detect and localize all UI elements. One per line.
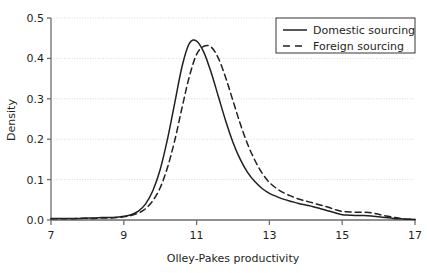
legend-label: Domestic sourcing: [313, 24, 415, 37]
x-tick-label: 7: [48, 229, 55, 242]
density-chart: 0.00.10.20.30.40.5 7911131517 Domestic s…: [0, 0, 428, 273]
y-tick-label: 0.3: [27, 93, 45, 106]
x-tick-label: 9: [120, 229, 127, 242]
y-tick-label: 0.0: [27, 214, 45, 227]
x-tick-label: 15: [335, 229, 349, 242]
y-tick-label: 0.4: [27, 52, 45, 65]
legend-label: Foreign sourcing: [313, 40, 404, 53]
y-tick-label: 0.1: [27, 174, 45, 187]
chart-legend: Domestic sourcingForeign sourcing: [276, 18, 415, 53]
y-tick-label: 0.5: [27, 12, 45, 25]
x-tick-label: 11: [190, 229, 204, 242]
x-axis-title: Olley-Pakes productivity: [167, 252, 300, 265]
y-tick-label: 0.2: [27, 133, 45, 146]
chart-canvas: 0.00.10.20.30.40.5 7911131517 Domestic s…: [0, 0, 428, 273]
x-tick-label: 17: [408, 229, 422, 242]
x-tick-label: 13: [262, 229, 276, 242]
y-axis-title: Density: [5, 99, 18, 141]
